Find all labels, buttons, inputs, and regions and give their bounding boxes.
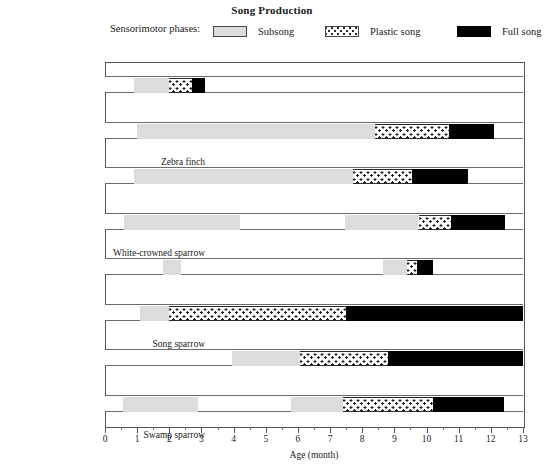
bar-segment-subsong xyxy=(291,397,342,412)
bar-segment-subsong xyxy=(383,260,407,275)
legend-label-plastic: Plastic song xyxy=(370,26,420,37)
bar-segment-plastic xyxy=(169,78,192,93)
x-tick-label: 2 xyxy=(157,434,181,444)
x-tick-minor xyxy=(410,427,411,430)
page-title: Song Production xyxy=(0,4,544,16)
bar-segment-subsong xyxy=(137,124,375,139)
legend-swatch-full-icon xyxy=(457,26,491,37)
legend-swatch-subsong-icon xyxy=(213,26,247,37)
chart-legend: Sensorimotor phases: Subsong Plastic son… xyxy=(0,22,544,38)
bar-segment-plastic xyxy=(375,124,449,139)
bar-segment-full xyxy=(346,306,523,321)
x-tick-major xyxy=(266,427,267,433)
bar-segment-subsong xyxy=(140,306,169,321)
bar-segment-subsong xyxy=(163,260,181,275)
bar-segment-full xyxy=(417,260,433,275)
x-axis-title: Age (month) xyxy=(105,450,523,460)
x-tick-major xyxy=(137,427,138,433)
x-tick-major xyxy=(427,427,428,433)
x-tick-label: 0 xyxy=(93,434,117,444)
x-tick-label: 8 xyxy=(350,434,374,444)
x-tick-major xyxy=(491,427,492,433)
chart-row-swamp-sparrow: Swamp sparrow xyxy=(105,213,523,230)
x-tick-minor xyxy=(346,427,347,430)
x-tick-label: 6 xyxy=(286,434,310,444)
x-tick-major xyxy=(394,427,395,433)
x-tick-label: 11 xyxy=(447,434,471,444)
chart-row-nightingale: Nightingale xyxy=(105,395,523,412)
x-tick-minor xyxy=(378,427,379,430)
bar-segment-subsong xyxy=(124,215,240,230)
chart-row-canary: Canary xyxy=(105,304,523,321)
x-tick-minor xyxy=(121,427,122,430)
legend-label-full: Full song xyxy=(502,26,541,37)
legend-item-subsong: Subsong xyxy=(213,22,294,36)
legend-item-plastic: Plastic song xyxy=(325,22,420,36)
x-tick-major xyxy=(523,427,524,433)
bar-segment-plastic xyxy=(300,351,388,366)
bar-segment-plastic xyxy=(343,397,433,412)
bar-segment-full xyxy=(449,124,494,139)
bar-segment-plastic xyxy=(407,260,417,275)
x-tick-label: 13 xyxy=(511,434,535,444)
bar-segment-full xyxy=(451,215,506,230)
x-tick-major xyxy=(105,427,106,433)
bar-segment-full xyxy=(412,169,468,184)
bar-segment-subsong xyxy=(134,78,169,93)
x-tick-minor xyxy=(314,427,315,430)
x-tick-label: 9 xyxy=(382,434,406,444)
legend-swatch-plastic-icon xyxy=(325,26,359,37)
x-tick-minor xyxy=(475,427,476,430)
x-tick-label: 5 xyxy=(254,434,278,444)
x-tick-minor xyxy=(507,427,508,430)
legend-item-full: Full song xyxy=(457,22,541,36)
x-tick-label: 4 xyxy=(222,434,246,444)
x-tick-major xyxy=(201,427,202,433)
bar-segment-plastic xyxy=(353,169,412,184)
bar-segment-subsong xyxy=(345,215,419,230)
x-tick-label: 10 xyxy=(415,434,439,444)
chart-row-starling: Starling xyxy=(105,349,523,366)
x-tick-minor xyxy=(282,427,283,430)
x-tick-label: 1 xyxy=(125,434,149,444)
x-tick-major xyxy=(169,427,170,433)
x-tick-label: 12 xyxy=(479,434,503,444)
chart-row-white-crowned-sparrow: White-crowned sparrow xyxy=(105,122,523,139)
chart-row-song-sparrow: Song sparrow xyxy=(105,167,523,184)
legend-label-subsong: Subsong xyxy=(258,26,294,37)
x-tick-minor xyxy=(185,427,186,430)
x-tick-major xyxy=(362,427,363,433)
x-tick-minor xyxy=(218,427,219,430)
bar-segment-subsong xyxy=(134,169,353,184)
chart-row-chaffinch: Chaffinch xyxy=(105,258,523,275)
bar-segment-full xyxy=(388,351,523,366)
x-tick-minor xyxy=(153,427,154,430)
x-tick-major xyxy=(298,427,299,433)
chart-row-zebra-finch: Zebra finch xyxy=(105,76,523,93)
x-tick-label: 7 xyxy=(318,434,342,444)
x-tick-major xyxy=(330,427,331,433)
bar-segment-subsong xyxy=(232,351,300,366)
bar-segment-plastic xyxy=(169,306,346,321)
x-tick-major xyxy=(459,427,460,433)
bar-segment-plastic xyxy=(419,215,451,230)
bar-segment-subsong xyxy=(123,397,199,412)
x-tick-minor xyxy=(443,427,444,430)
x-tick-minor xyxy=(250,427,251,430)
legend-caption: Sensorimotor phases: xyxy=(110,23,200,34)
x-tick-major xyxy=(234,427,235,433)
bar-segment-full xyxy=(192,78,205,93)
bar-segment-full xyxy=(433,397,504,412)
x-tick-label: 3 xyxy=(189,434,213,444)
